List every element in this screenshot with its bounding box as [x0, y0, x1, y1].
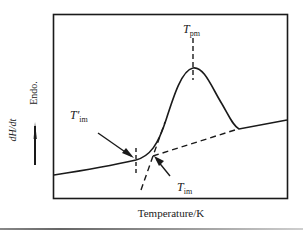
dsc-thermogram-diagram: Tpm T′im Tim dH/dt Endo. Temperature/K: [0, 0, 303, 231]
baseline-curve: [54, 160, 136, 175]
bottom-divider: [0, 228, 303, 230]
x-axis-label: Temperature/K: [138, 207, 204, 219]
y-axis-label: dH/dt: [7, 118, 18, 141]
t-im-prime-arrow-icon: [98, 133, 134, 158]
endo-arrow-icon: [34, 122, 37, 165]
t-im-prime-label: T′im: [70, 108, 89, 124]
t-pm-label: Tpm: [183, 22, 201, 38]
t-im-arrow-icon: [154, 156, 170, 176]
t-im-label: Tim: [177, 180, 193, 196]
extrapolated-baseline-dashed: [153, 129, 238, 156]
melting-peak-curve: [136, 68, 287, 160]
endo-label: Endo.: [28, 81, 39, 105]
